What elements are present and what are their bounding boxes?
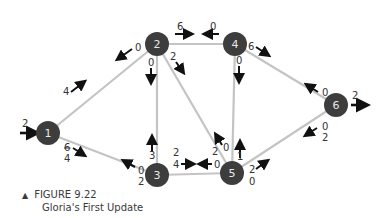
node-4: 4 bbox=[223, 32, 247, 56]
label-3-5-back-old: 0 bbox=[214, 159, 220, 170]
label-2-5-up-old: 2 bbox=[212, 146, 218, 157]
node-3: 3 bbox=[145, 163, 169, 187]
label-5-6-back-old: 0 bbox=[322, 121, 328, 132]
arrow-2-5-down-icon bbox=[176, 62, 183, 72]
node-1: 1 bbox=[36, 121, 60, 145]
label-5-6-forward-old: 2 bbox=[249, 164, 255, 175]
arrow-5-6-forward-icon bbox=[256, 161, 267, 169]
edge-2-5 bbox=[157, 44, 232, 173]
node-label: 4 bbox=[232, 38, 239, 51]
label-source: 2 bbox=[22, 118, 28, 129]
label-5-6-forward-new: 0 bbox=[249, 176, 255, 187]
label-4-5-up: 1 bbox=[237, 151, 243, 162]
label-3-5-forward-old: 4 bbox=[173, 159, 179, 170]
label-2-4-back: 0 bbox=[210, 21, 216, 32]
triangle-marker-icon: ▲ bbox=[22, 191, 28, 200]
label-4-5-down: 0 bbox=[236, 55, 242, 66]
label-5-6-back-new: 2 bbox=[322, 132, 328, 143]
edge-5-6 bbox=[232, 105, 336, 173]
label-1-3-back-old: 0 bbox=[138, 165, 144, 176]
label-1-2-forward: 4 bbox=[63, 86, 69, 97]
figure-title: Gloria's First Update bbox=[22, 202, 143, 214]
label-2-3-up: 3 bbox=[149, 150, 155, 161]
label-1-2-back: 0 bbox=[135, 42, 141, 53]
node-label: 6 bbox=[333, 99, 340, 112]
node-5: 5 bbox=[220, 161, 244, 185]
network-diagram: 2 4 0 6 4 0 2 6 0 0 3 2 2 0 2 4 0 0 1 6 … bbox=[0, 0, 390, 218]
label-2-4-forward: 6 bbox=[177, 21, 183, 32]
arrow-2-5-up-icon bbox=[216, 135, 222, 145]
label-sink: 2 bbox=[352, 90, 358, 101]
label-1-3-back-new: 2 bbox=[138, 176, 144, 187]
label-2-5-down: 2 bbox=[170, 51, 176, 62]
node-label: 2 bbox=[154, 38, 161, 51]
label-2-5-up-new: 0 bbox=[223, 142, 229, 153]
node-label: 3 bbox=[154, 169, 161, 182]
edges bbox=[48, 44, 336, 175]
label-3-5-forward-new: 2 bbox=[173, 147, 179, 158]
arrow-4-6-forward-icon bbox=[256, 47, 268, 55]
edge-4-6 bbox=[235, 44, 336, 105]
edge-4-5 bbox=[232, 44, 235, 173]
flow-arrows bbox=[20, 34, 366, 169]
caption-line-1: ▲FIGURE 9.22 bbox=[22, 189, 143, 202]
label-4-6-back: 0 bbox=[322, 87, 328, 98]
node-label: 5 bbox=[229, 167, 236, 180]
flow-labels: 2 4 0 6 4 0 2 6 0 0 3 2 2 0 2 4 0 0 1 6 … bbox=[22, 21, 358, 187]
node-2: 2 bbox=[145, 32, 169, 56]
label-4-6-forward: 6 bbox=[248, 41, 254, 52]
label-1-3-forward-old: 6 bbox=[64, 142, 70, 153]
figure-caption: ▲FIGURE 9.22 Gloria's First Update bbox=[22, 189, 143, 214]
node-6: 6 bbox=[324, 93, 348, 117]
label-2-3-down: 0 bbox=[148, 57, 154, 68]
node-label: 1 bbox=[45, 127, 52, 140]
figure-number: FIGURE 9.22 bbox=[34, 189, 96, 200]
label-1-3-forward-new: 4 bbox=[64, 153, 70, 164]
arrow-1-2-back-icon bbox=[118, 49, 132, 59]
arrow-5-6-back-icon bbox=[306, 128, 317, 135]
arrow-1-3-forward-icon bbox=[73, 148, 84, 155]
arrow-1-2-forward-icon bbox=[71, 82, 84, 92]
